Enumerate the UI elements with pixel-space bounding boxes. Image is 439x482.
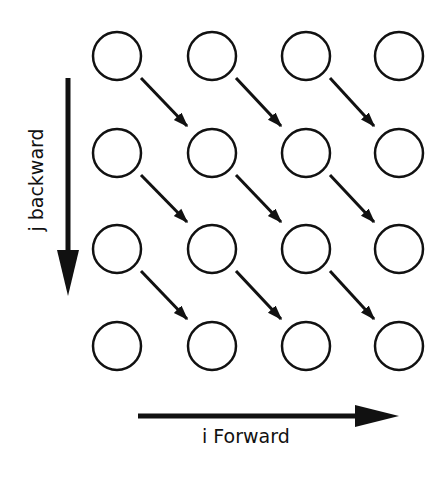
iteration-node — [93, 129, 141, 177]
iteration-node — [282, 32, 330, 80]
iteration-node — [375, 225, 423, 273]
i-forward-arrow — [138, 405, 399, 427]
iteration-node — [282, 322, 330, 370]
dependency-arrow — [330, 78, 374, 126]
iteration-node — [282, 225, 330, 273]
dependency-arrow — [236, 78, 281, 126]
iteration-node — [93, 322, 141, 370]
iteration-node — [282, 129, 330, 177]
dependency-arrow — [236, 175, 281, 222]
dependency-arrow — [141, 271, 187, 319]
dependency-arrow — [141, 175, 187, 222]
diagram-canvas — [0, 0, 439, 482]
iteration-node — [188, 322, 236, 370]
j-axis-label: j backward — [25, 128, 47, 231]
dependency-arrow — [141, 78, 187, 126]
iteration-node — [188, 225, 236, 273]
dependency-arrow — [236, 271, 281, 319]
iteration-node — [375, 322, 423, 370]
iteration-node — [93, 32, 141, 80]
iteration-node — [188, 32, 236, 80]
i-axis-label: i Forward — [202, 425, 290, 447]
iteration-node — [375, 129, 423, 177]
dependency-arrow — [330, 175, 374, 222]
iteration-node — [188, 129, 236, 177]
iteration-node — [93, 225, 141, 273]
dependency-arrows — [141, 78, 374, 319]
iteration-node — [375, 32, 423, 80]
dependency-arrow — [330, 271, 374, 319]
j-backward-arrow — [57, 78, 79, 296]
